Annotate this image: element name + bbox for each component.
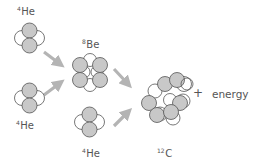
label-he-middle: 4He — [16, 119, 34, 131]
triple-alpha-diagram — [0, 0, 258, 165]
carbon-nucleus — [142, 73, 194, 126]
label-be: 8Be — [82, 38, 99, 50]
label-he-bottom: 4He — [82, 147, 100, 159]
energy-label: energy — [212, 88, 249, 100]
helium-nucleus-bottom — [75, 107, 105, 137]
label-carbon: 12C — [157, 147, 172, 159]
arrow-he-mid-to-be — [44, 83, 60, 95]
helium-nucleus-top — [15, 23, 45, 53]
arrow-he-bottom-to-c — [114, 112, 128, 126]
plus-sign: + — [193, 86, 203, 100]
label-he-top: 4He — [17, 5, 35, 17]
arrow-he-top-to-be — [44, 52, 60, 64]
helium-nucleus-middle — [15, 83, 45, 113]
arrow-be-to-c — [114, 69, 128, 84]
beryllium-nucleus — [73, 54, 108, 92]
